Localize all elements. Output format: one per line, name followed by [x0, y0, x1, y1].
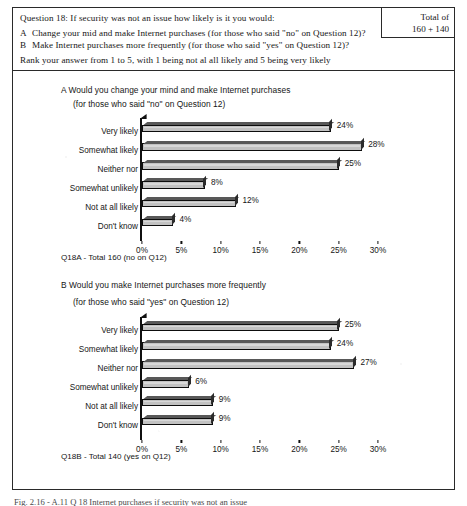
bar-top-face: [143, 340, 334, 343]
bar-value-label: 8%: [211, 177, 223, 186]
bar-top-face: [143, 178, 208, 181]
chart-a-caption: Q18A - Total 160 (no on Q12): [61, 253, 167, 262]
bar-right-face: [188, 374, 191, 386]
bar-row: Don't know4%: [142, 216, 378, 235]
chart-a-title-line2: (for those who said "no" on Question 12): [73, 99, 225, 109]
bar-highlight: [144, 344, 329, 346]
bar-top-face: [143, 377, 192, 380]
bar-right-face: [337, 156, 340, 168]
x-tick-mark: [377, 440, 378, 443]
bar-category-label: Don't know: [98, 420, 138, 429]
bar-top-face: [143, 321, 342, 324]
bar-value-label: 12%: [242, 196, 258, 205]
question-option-a: A Change your mid and make Internet purc…: [20, 28, 357, 39]
figure-caption: Fig. 2.16 - A.11 Q 18 Internet purchases…: [14, 497, 314, 506]
bar-a-2: [142, 162, 339, 170]
x-tick-label: 15%: [252, 246, 268, 255]
bar-category-label: Somewhat unlikely: [70, 183, 138, 192]
bar-top-face: [143, 396, 216, 399]
bar-category-label: Somewhat likely: [79, 146, 138, 155]
x-tick-label: 20%: [291, 445, 307, 454]
x-tick-label: 10%: [212, 246, 228, 255]
bar-highlight: [144, 221, 171, 223]
bar-right-face: [211, 412, 214, 424]
question-option-b: B Make Internet purchases more frequentl…: [20, 40, 357, 51]
document-frame: Question 18: If security was not an issu…: [12, 7, 455, 490]
bar-row: Neither nor25%: [142, 160, 378, 179]
x-tick-label: 25%: [330, 246, 346, 255]
bar-category-label: Somewhat likely: [79, 345, 138, 354]
bar-top-face: [143, 141, 365, 144]
x-tick-mark: [141, 241, 142, 244]
bar-top-face: [143, 415, 216, 418]
bar-b-3: [142, 380, 189, 388]
x-tick-mark: [220, 241, 221, 244]
chart-b-caption: Q18B - Total 140 (yes on Q12): [61, 452, 171, 461]
bar-top-face: [143, 359, 358, 362]
bar-top-face: [143, 160, 342, 163]
chart-b-title-line2: (for those who said "yes" on Question 12…: [73, 297, 229, 307]
total-value: 160 + 140: [382, 24, 449, 36]
bar-highlight: [144, 164, 337, 166]
total-box: Total of 160 + 140: [381, 8, 454, 38]
bar-right-face: [353, 355, 356, 367]
bar-category-label: Not at all likely: [85, 401, 138, 410]
total-label: Total of: [382, 12, 449, 24]
bar-a-0: [142, 125, 331, 133]
x-tick-mark: [299, 241, 300, 244]
bar-right-face: [211, 393, 214, 405]
x-tick-mark: [259, 440, 260, 443]
bar-a-5: [142, 219, 173, 227]
chart-a-title-line1: A Would you change your mind and make In…: [61, 85, 290, 95]
bar-row: Very likely25%: [142, 321, 378, 340]
x-tick-label: 30%: [370, 246, 386, 255]
x-tick-label: 25%: [330, 445, 346, 454]
x-tick-mark: [338, 241, 339, 244]
bar-value-label: 9%: [219, 395, 231, 404]
bar-right-face: [172, 213, 175, 225]
question-prompt: Question 18: If security was not an issu…: [20, 13, 357, 24]
bar-b-2: [142, 361, 354, 369]
bar-b-5: [142, 418, 213, 426]
option-b-marker: B: [20, 40, 32, 51]
bar-row: Somewhat unlikely6%: [142, 378, 378, 397]
bar-value-label: 28%: [368, 139, 384, 148]
x-tick-mark: [181, 440, 182, 443]
bar-highlight: [144, 420, 211, 422]
bar-highlight: [144, 326, 337, 328]
x-tick-mark: [377, 241, 378, 244]
x-tick-mark: [220, 440, 221, 443]
bar-value-label: 27%: [360, 357, 376, 366]
bar-highlight: [144, 183, 203, 185]
bar-category-label: Don't know: [98, 221, 138, 230]
bar-row: Somewhat likely24%: [142, 340, 378, 359]
bar-right-face: [329, 119, 332, 131]
bar-category-label: Very likely: [101, 127, 138, 136]
bar-highlight: [144, 382, 187, 384]
x-tick-label: 10%: [212, 445, 228, 454]
bar-row: Not at all likely12%: [142, 197, 378, 216]
bar-b-4: [142, 399, 213, 407]
bar-right-face: [337, 318, 340, 330]
x-tick-label: 5%: [175, 445, 187, 454]
x-tick-label: 15%: [252, 445, 268, 454]
bar-category-label: Very likely: [101, 326, 138, 335]
bar-value-label: 25%: [345, 158, 361, 167]
x-tick-mark: [299, 440, 300, 443]
bar-right-face: [203, 175, 206, 187]
question-text-group: Question 18: If security was not an issu…: [20, 13, 357, 67]
bar-highlight: [144, 401, 211, 403]
bar-row: Somewhat likely28%: [142, 141, 378, 160]
bar-top-face: [143, 197, 240, 200]
option-a-marker: A: [20, 28, 32, 39]
bar-value-label: 24%: [337, 338, 353, 347]
chart-a-plot: Very likely24%Somewhat likely28%Neither …: [140, 118, 378, 241]
option-b-text: Make Internet purchases more frequently …: [32, 40, 349, 51]
x-tick-mark: [338, 440, 339, 443]
chart-b-title-line1: B Would you make Internet purchases more…: [61, 280, 266, 290]
x-tick-mark: [259, 241, 260, 244]
bar-right-face: [361, 137, 364, 149]
chart-a-axis-cap: [140, 114, 147, 119]
bar-b-1: [142, 342, 331, 350]
x-tick-label: 5%: [175, 246, 187, 255]
